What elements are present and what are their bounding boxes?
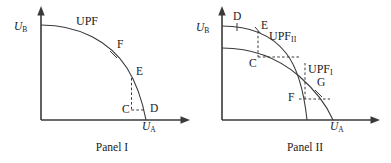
panel-2-y-axis-label-sub: B: [204, 26, 209, 35]
panel-1-upf-label-main: UPF: [76, 14, 98, 28]
panel-1-point-e-label: E: [136, 66, 143, 78]
panel-1-point-c-label: C: [122, 104, 130, 116]
panel-2-point-c-label: C: [249, 58, 257, 70]
panel-2-point-e-label: E: [261, 20, 268, 32]
panel-2-upf-ii-label-main: UPF: [269, 29, 291, 43]
panel-2-upf-i-label-sub: I: [330, 68, 333, 77]
panel-1-point-d-label: D: [150, 103, 158, 115]
panel-2-x-axis-arrowhead: [371, 116, 381, 123]
panel-2-upf-ii-label-sub: II: [291, 35, 296, 44]
panel-1-x-axis-label-sub: A: [150, 125, 155, 134]
panel-1-upf-label: UPF: [76, 15, 98, 27]
panel-1-y-axis-arrowhead: [37, 6, 44, 16]
panel-2-caption: Panel II: [245, 141, 365, 153]
panel-2-point-f-label: F: [288, 92, 294, 104]
panel-1-upf-curve: [41, 25, 146, 120]
panel-2-upf-ii-label: UPFII: [269, 30, 296, 44]
panel-2-point-g-label: G: [317, 77, 325, 89]
panel-1-x-axis-label: UA: [142, 121, 156, 133]
panel-1-point-f-label: F: [117, 39, 123, 51]
panel-2-upf-i-label: UPFI: [308, 63, 333, 77]
figure-root: UB UA UPF F E C D Panel I UB UA UPFII UP…: [0, 0, 391, 163]
panel-1-graphics: [37, 6, 190, 124]
panel-1-y-axis-label: UB: [14, 21, 27, 33]
panel-1-caption: Panel I: [52, 141, 172, 153]
panel-1-y-axis-label-sub: B: [22, 25, 27, 34]
panel-2-graphics: [218, 6, 380, 124]
panel-2-y-axis-label: UB: [196, 22, 209, 34]
panel-2-x-axis-label-sub: A: [338, 125, 343, 134]
panel-1-x-axis-arrowhead: [181, 116, 191, 123]
panel-2-point-d-label: D: [233, 11, 241, 23]
panel-2-upf-i-label-main: UPF: [308, 62, 330, 76]
panel-2-x-axis-label: UA: [330, 121, 344, 133]
panel-2-y-axis-arrowhead: [218, 6, 225, 16]
